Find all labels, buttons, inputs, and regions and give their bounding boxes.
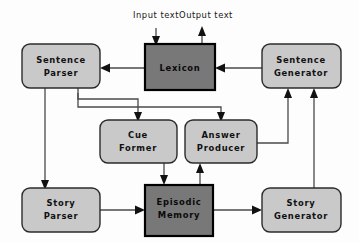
answer-producer-box[interactable] bbox=[185, 120, 257, 163]
cue-former-label-line1: Cue bbox=[128, 130, 148, 140]
edge-sentence-parser-to-answer-producer bbox=[78, 93, 225, 122]
node-episodic-memory[interactable]: Episodic Memory bbox=[145, 185, 213, 236]
node-story-parser[interactable]: Story Parser bbox=[22, 188, 100, 232]
edge-answer-producer-to-sentence-generator bbox=[257, 88, 292, 143]
episodic-memory-label-line2: Memory bbox=[158, 210, 200, 220]
edge-episodic-memory-to-story-generator bbox=[213, 206, 262, 215]
story-parser-box[interactable] bbox=[22, 188, 100, 232]
input-text-label: Input text bbox=[133, 10, 179, 20]
edge-sentence-parser-to-story-parser bbox=[41, 88, 49, 190]
story-generator-label-line1: Story bbox=[287, 198, 316, 208]
node-answer-producer[interactable]: Answer Producer bbox=[185, 120, 257, 163]
node-story-generator[interactable]: Story Generator bbox=[262, 188, 341, 232]
edge-story-generator-to-sentence-generator bbox=[310, 88, 318, 188]
sentence-parser-label-line2: Parser bbox=[44, 68, 79, 78]
edge-sentence-generator-to-lexicon bbox=[215, 64, 262, 73]
episodic-memory-label-line1: Episodic bbox=[157, 197, 202, 207]
sentence-parser-box[interactable] bbox=[22, 44, 100, 88]
story-parser-label-line2: Parser bbox=[44, 211, 79, 221]
sentence-generator-label-line1: Sentence bbox=[276, 55, 326, 65]
edge-episodic-memory-to-answer-producer bbox=[196, 163, 204, 185]
answer-producer-label-line1: Answer bbox=[201, 130, 240, 140]
node-sentence-generator[interactable]: Sentence Generator bbox=[262, 44, 341, 88]
story-parser-label-line1: Story bbox=[47, 198, 76, 208]
sentence-generator-box[interactable] bbox=[262, 44, 341, 88]
edge-lexicon-to-output bbox=[198, 26, 206, 44]
edge-story-parser-to-episodic-memory bbox=[100, 206, 145, 215]
edge-cue-former-to-episodic-memory bbox=[160, 163, 168, 185]
sentence-generator-label-line2: Generator bbox=[274, 68, 328, 78]
architecture-diagram: Input text Output text Sentence Parser L… bbox=[0, 0, 359, 242]
sentence-parser-label-line1: Sentence bbox=[36, 55, 86, 65]
lexicon-label-line1: Lexicon bbox=[160, 63, 201, 73]
cue-former-label-line2: Former bbox=[119, 143, 157, 153]
node-sentence-parser[interactable]: Sentence Parser bbox=[22, 44, 100, 88]
node-cue-former[interactable]: Cue Former bbox=[100, 120, 177, 163]
story-generator-label-line2: Generator bbox=[274, 211, 328, 221]
answer-producer-label-line2: Producer bbox=[197, 143, 246, 153]
edge-lexicon-to-sentence-parser bbox=[100, 64, 145, 73]
diagram-canvas: Input text Output text Sentence Parser L… bbox=[0, 0, 359, 242]
cue-former-box[interactable] bbox=[100, 120, 177, 163]
node-lexicon[interactable]: Lexicon bbox=[145, 44, 215, 90]
output-text-label: Output text bbox=[179, 10, 233, 20]
edge-sentence-parser-to-cue-former bbox=[78, 88, 142, 122]
story-generator-box[interactable] bbox=[262, 188, 341, 232]
